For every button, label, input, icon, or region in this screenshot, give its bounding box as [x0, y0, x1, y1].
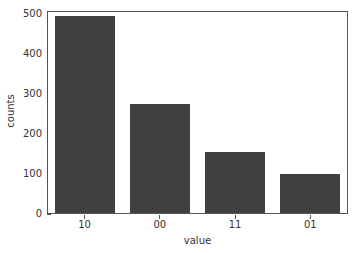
bar[interactable]: [280, 174, 340, 213]
x-axis-tick: 10: [47, 215, 122, 230]
plot-area: [47, 11, 348, 214]
bar-slot: [272, 12, 347, 213]
bar[interactable]: [205, 152, 265, 213]
x-axis-tick-mark: [84, 215, 85, 219]
x-axis-tick: 01: [273, 215, 348, 230]
bar-slot: [123, 12, 198, 213]
y-axis-tick-label: 400: [23, 49, 47, 59]
bar-series: [48, 12, 347, 213]
x-axis-tick-label: 01: [273, 220, 348, 230]
y-axis-tick-label: 0: [36, 209, 47, 219]
x-axis-tick: 00: [122, 215, 197, 230]
bar-chart-figure: 0100200300400500 counts 10001101 value: [0, 0, 361, 253]
bar[interactable]: [55, 16, 115, 213]
x-axis-tick-mark: [159, 215, 160, 219]
x-axis-tick: 11: [198, 215, 273, 230]
x-axis-tick-label: 11: [198, 220, 273, 230]
x-axis-tick-mark: [235, 215, 236, 219]
bar-slot: [48, 12, 123, 213]
x-axis-tick-label: 10: [47, 220, 122, 230]
y-axis-tick-label: 200: [23, 129, 47, 139]
y-axis-tick-label: 500: [23, 9, 47, 19]
bar-slot: [198, 12, 273, 213]
y-axis-tick-label: 300: [23, 89, 47, 99]
y-axis-label: counts: [6, 61, 16, 161]
x-axis-ticks: 10001101: [47, 215, 348, 230]
x-axis-tick-mark: [310, 215, 311, 219]
x-axis-tick-label: 00: [122, 220, 197, 230]
y-axis-tick-label: 100: [23, 169, 47, 179]
x-axis-label: value: [47, 236, 348, 246]
bar[interactable]: [130, 104, 190, 213]
